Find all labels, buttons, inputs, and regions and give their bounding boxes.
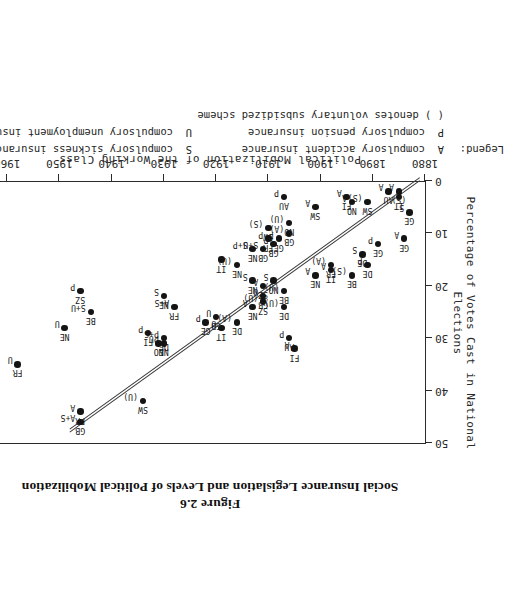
legend-key-p: P [438, 127, 444, 139]
point-program-label: (S) [249, 220, 264, 229]
data-point [88, 309, 94, 315]
point-program-label: U [206, 309, 211, 318]
legend-note: ( ) denotes voluntary subsidized scheme [0, 107, 504, 124]
point-country-label: NE [60, 332, 70, 341]
point-program-label: (U) [217, 257, 232, 266]
y-tick [425, 232, 432, 233]
point-country-label: NO [284, 227, 294, 236]
x-axis-title: Political Mobilization of the Working Cl… [0, 153, 508, 166]
data-point [281, 288, 287, 294]
point-program-label: (U) [264, 298, 279, 307]
point-program-label: A [337, 188, 342, 197]
point-country-label: FI [290, 353, 300, 362]
point-country-label: FR [169, 311, 179, 320]
point-program-label: A [305, 267, 310, 276]
point-country-label: NE [248, 311, 258, 320]
data-point [312, 272, 318, 278]
point-country-label: SZ [75, 295, 85, 304]
x-tick [215, 174, 216, 181]
point-program-label: S+P [233, 241, 248, 250]
point-country-label: IT [326, 274, 336, 283]
scatter-plot-area: 0102030405018801890190019101920193019401… [0, 181, 426, 444]
figure-title: Social Insurance Legislation and Levels … [0, 479, 508, 495]
point-country-label: FR [263, 243, 273, 252]
point-program-label: P [274, 188, 279, 197]
point-program-label: U [55, 319, 60, 328]
point-country-label: NO [269, 285, 279, 294]
point-country-label: GE [404, 216, 414, 225]
point-country-label: NE [232, 269, 242, 278]
data-point [155, 340, 161, 346]
data-point [265, 235, 271, 241]
point-program-label: P [138, 325, 143, 334]
data-point [401, 235, 407, 241]
data-point [234, 262, 240, 268]
point-program-label: A [243, 298, 248, 307]
point-country-label: NE [310, 279, 320, 288]
data-point [171, 304, 177, 310]
point-program-label: U [8, 356, 13, 365]
point-program-label: P [358, 257, 363, 266]
x-tick [424, 174, 425, 181]
x-tick [58, 174, 59, 181]
point-program-label: P [368, 236, 373, 245]
point-country-label: IT [394, 201, 404, 210]
point-program-label: S+U [71, 304, 86, 313]
data-point [406, 209, 412, 215]
y-tick [425, 337, 432, 338]
point-program-label: A+S [61, 414, 76, 423]
data-point [291, 345, 297, 351]
data-point [281, 304, 287, 310]
y-tick-label: 40 [435, 385, 463, 398]
y-tick [425, 180, 432, 181]
rotated-scan-page: Figure 2.6 Social Insurance Legislation … [0, 98, 508, 518]
x-tick [111, 174, 112, 181]
point-program-label: P [258, 230, 263, 239]
data-point [343, 194, 349, 200]
point-country-label: SW [138, 405, 148, 414]
figure-number: Figure 2.6 [0, 496, 508, 512]
point-country-label: NE [159, 300, 169, 309]
y-tick-label: 10 [435, 227, 463, 240]
legend-key-u: U [186, 127, 192, 139]
point-country-label: NO [154, 347, 164, 356]
point-country-label: FR [75, 416, 85, 425]
point-program-label: S [243, 272, 248, 281]
point-country-label: GB [75, 426, 85, 435]
data-point [270, 277, 276, 283]
point-country-label: FI [342, 201, 352, 210]
point-country-label: GE [373, 248, 383, 257]
point-program-label: P [70, 283, 75, 292]
point-program-label: S [154, 288, 159, 297]
data-point [61, 325, 67, 331]
point-country-label: NE [248, 253, 258, 262]
point-country-label: DE [279, 311, 289, 320]
y-tick [425, 285, 432, 286]
point-country-label: AU [279, 201, 289, 210]
data-point [286, 220, 292, 226]
x-tick [320, 174, 321, 181]
data-point [281, 194, 287, 200]
point-country-label: FR [13, 368, 23, 377]
data-point [14, 361, 20, 367]
data-point [140, 398, 146, 404]
data-point [77, 288, 83, 294]
data-point [364, 262, 370, 268]
point-program-label: A [394, 230, 399, 239]
data-point [202, 319, 208, 325]
point-program-label: P [196, 314, 201, 323]
y-axis-title: Percentage of Votes Cast in National Ele… [451, 173, 477, 473]
data-point [276, 235, 282, 241]
data-point [249, 304, 255, 310]
point-program-label: A [285, 340, 290, 349]
data-point [349, 272, 355, 278]
legend: Legend: A compulsory accident insurance … [0, 107, 504, 158]
point-country-label: BE [347, 279, 357, 288]
point-country-label: GE [201, 326, 211, 335]
point-country-label: GE [399, 243, 409, 252]
point-program-label: S [352, 246, 357, 255]
point-program-label: A [70, 403, 75, 412]
point-program-label: A [253, 278, 258, 287]
x-tick [372, 174, 373, 181]
y-tick-label: 20 [435, 280, 463, 293]
